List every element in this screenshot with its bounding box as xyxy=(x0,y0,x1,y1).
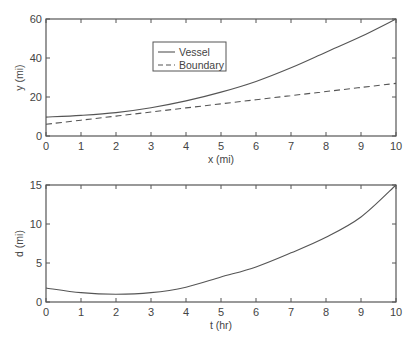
top-plot: 0123456789100204060x (mi)y (mi)VesselBou… xyxy=(13,13,402,165)
x-tick-label: 4 xyxy=(183,306,189,318)
x-axis-label: x (mi) xyxy=(208,153,234,165)
x-tick-label: 7 xyxy=(288,306,294,318)
y-tick-label: 5 xyxy=(36,257,42,269)
x-tick-label: 5 xyxy=(218,140,224,152)
y-tick-label: 40 xyxy=(30,52,42,64)
legend-label-vessel: Vessel xyxy=(179,46,210,58)
x-axis-label: t (hr) xyxy=(210,319,232,331)
figure: 0123456789100204060x (mi)y (mi)VesselBou… xyxy=(0,0,417,344)
y-tick-label: 0 xyxy=(36,130,42,142)
plot-frame xyxy=(46,185,396,302)
y-tick-label: 20 xyxy=(30,91,42,103)
x-tick-label: 1 xyxy=(78,306,84,318)
y-axis-label: d (mi) xyxy=(13,230,25,257)
x-tick-label: 1 xyxy=(78,140,84,152)
y-tick-label: 0 xyxy=(36,296,42,308)
x-tick-label: 6 xyxy=(253,140,259,152)
x-tick-label: 0 xyxy=(43,140,49,152)
x-tick-label: 10 xyxy=(390,306,402,318)
x-tick-label: 6 xyxy=(253,306,259,318)
x-tick-label: 2 xyxy=(113,306,119,318)
y-tick-label: 10 xyxy=(30,218,42,230)
x-tick-label: 8 xyxy=(323,306,329,318)
bottom-plot: 012345678910051015t (hr)d (mi) xyxy=(13,179,402,331)
x-tick-label: 3 xyxy=(148,306,154,318)
x-tick-label: 8 xyxy=(323,140,329,152)
x-tick-label: 2 xyxy=(113,140,119,152)
series-d-line xyxy=(46,185,396,294)
x-tick-label: 9 xyxy=(358,306,364,318)
x-tick-label: 5 xyxy=(218,306,224,318)
y-tick-label: 15 xyxy=(30,179,42,191)
legend-label-boundary: Boundary xyxy=(179,59,225,71)
x-tick-label: 7 xyxy=(288,140,294,152)
x-tick-label: 0 xyxy=(43,306,49,318)
series-boundary-line xyxy=(46,83,396,124)
x-tick-label: 9 xyxy=(358,140,364,152)
x-tick-label: 4 xyxy=(183,140,189,152)
x-tick-label: 3 xyxy=(148,140,154,152)
y-tick-label: 60 xyxy=(30,13,42,25)
legend: VesselBoundary xyxy=(153,42,226,71)
x-tick-label: 10 xyxy=(390,140,402,152)
y-axis-label: y (mi) xyxy=(13,64,25,90)
